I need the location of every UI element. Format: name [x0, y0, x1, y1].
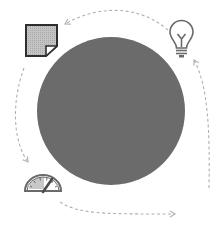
- arrow-performance-to-exit: [60, 202, 175, 214]
- center-circle: [37, 37, 185, 185]
- cycle-diagram: Cycle diagram: [0, 0, 224, 233]
- lightbulb-icon: [170, 21, 193, 58]
- arrow-entry-to-idea: [194, 60, 209, 188]
- diagram-canvas: [0, 0, 224, 233]
- arrow-document-to-performance: [15, 68, 28, 162]
- folded-page-icon: [26, 25, 57, 56]
- arrow-idea-to-document: [65, 10, 168, 30]
- speedometer-gauge-icon: [25, 175, 61, 192]
